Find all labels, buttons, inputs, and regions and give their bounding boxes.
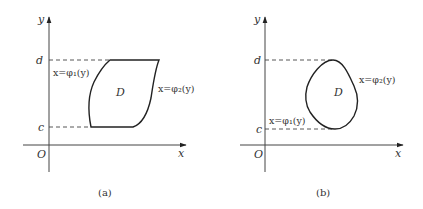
panel-caption: (b): [316, 187, 330, 198]
left-boundary-equation: x=φ₁(y): [269, 115, 306, 126]
origin-label: O: [254, 148, 263, 161]
region-label: D: [333, 86, 343, 99]
y-axis-label: y: [253, 13, 261, 26]
tick-label-c: c: [256, 123, 262, 136]
tick-label-d: d: [254, 54, 261, 67]
left-boundary-equation: x=φ₁(y): [53, 67, 90, 78]
x-axis-label: x: [178, 147, 185, 160]
region-boundary: [306, 60, 358, 129]
tick-label-c: c: [38, 121, 44, 134]
panel-b: y x O d c D x=φ₁(y) x=φ₂(y) (b): [240, 13, 403, 198]
panel-caption: (a): [98, 187, 112, 198]
x-axis-label: x: [395, 147, 402, 160]
tick-label-d: d: [36, 54, 43, 67]
right-boundary-equation: x=φ₂(y): [359, 74, 396, 85]
region-label: D: [115, 86, 125, 99]
right-boundary-equation: x=φ₂(y): [158, 83, 195, 94]
panel-a: y x O d c D x=φ₁(y) x=φ₂(y) (a): [23, 13, 195, 198]
y-axis-label: y: [37, 13, 45, 26]
origin-label: O: [37, 148, 46, 161]
